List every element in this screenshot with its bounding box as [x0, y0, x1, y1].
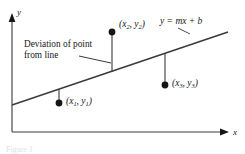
point-2-y-subscript: 2 — [139, 23, 142, 30]
x-axis-label: x — [233, 128, 237, 137]
point-3-y-symbol: y — [187, 78, 191, 88]
point-1-y-symbol: y — [81, 96, 85, 106]
y-axis — [9, 13, 16, 132]
deviation-annotation: Deviation of point from line — [24, 39, 92, 62]
point-2-x-subscript: 2 — [126, 23, 129, 30]
data-point-3-dot — [162, 82, 169, 89]
data-point-3-label: (x3, y3) — [172, 79, 198, 89]
deviation-annotation-line-2: from line — [24, 50, 92, 61]
data-point-1-label: (x1, y1) — [66, 97, 92, 107]
figure-caption-partial: Figure 1 — [6, 146, 33, 154]
data-point-2-label: (x2, y2) — [119, 20, 145, 30]
point-1-close: ) — [89, 96, 92, 106]
data-point-2-dot — [109, 29, 116, 36]
data-point-1-dot — [56, 100, 63, 107]
point-3-close: ) — [195, 78, 198, 88]
point-3-x-subscript: 3 — [179, 82, 182, 89]
deviation-annotation-line-1: Deviation of point — [24, 39, 92, 50]
point-3-y-subscript: 3 — [192, 82, 195, 89]
regression-line-equation-label: y = mx + b — [160, 17, 202, 27]
point-2-close: ) — [142, 19, 145, 29]
point-2-y-symbol: y — [134, 19, 138, 29]
line-label-leader — [178, 28, 190, 34]
y-axis-label: y — [17, 8, 21, 17]
regression-deviation-figure: y x y = mx + b Deviation of point from l… — [0, 0, 245, 154]
point-1-y-subscript: 1 — [86, 100, 89, 107]
x-axis — [12, 129, 229, 136]
point-1-x-subscript: 1 — [73, 100, 76, 107]
